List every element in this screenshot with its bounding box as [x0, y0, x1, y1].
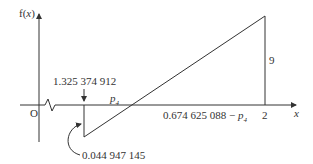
- x-tick-2: 2: [262, 110, 268, 121]
- y-axis-label: f(x): [19, 8, 35, 19]
- function-diagram: f(x) O 1.325 374 912 p4 0.674 625 088 − …: [0, 0, 313, 164]
- diagram-canvas: [0, 0, 313, 164]
- p4-label: p4: [110, 93, 119, 107]
- origin-label: O: [30, 108, 38, 119]
- top-annotation: 1.325 374 912: [53, 76, 116, 87]
- curved-arrow-icon: [68, 124, 81, 155]
- segment-label: 0.674 625 088 − p4: [163, 110, 247, 124]
- x-axis: [20, 99, 296, 111]
- height-label: 9: [269, 55, 275, 66]
- x-axis-label: x: [294, 108, 299, 119]
- bottom-annotation: 0.044 947 145: [82, 150, 145, 161]
